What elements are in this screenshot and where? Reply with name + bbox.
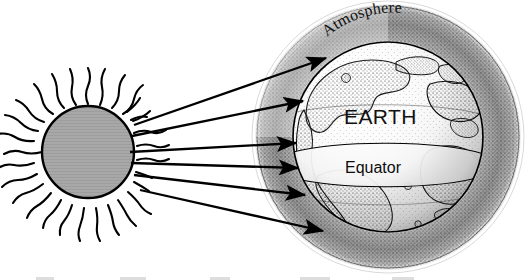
earth-label: EARTH — [344, 105, 417, 128]
diagram-canvas: Atmosphere EARTH Equator — [0, 0, 528, 280]
equator-label: Equator — [345, 159, 402, 176]
sun-disc — [42, 106, 134, 198]
globe-shading — [293, 42, 483, 232]
sun-earth-atmosphere-illustration: Atmosphere EARTH Equator — [0, 0, 528, 280]
